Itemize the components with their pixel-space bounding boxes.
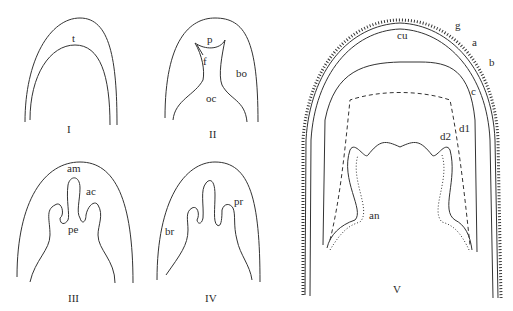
label-br: br [165, 226, 174, 237]
label-a: a [472, 37, 477, 48]
panel-v-drawing [303, 20, 501, 298]
label-bo: bo [236, 68, 247, 79]
label-am: am [67, 163, 80, 174]
panel-numeral-i: I [67, 124, 71, 135]
label-pe: pe [68, 224, 78, 235]
label-oc: oc [206, 93, 216, 104]
label-p: p [207, 34, 213, 45]
panel-numeral-iv: IV [205, 293, 217, 304]
panel-numeral-ii: II [209, 129, 216, 140]
panel-i-drawing [25, 18, 117, 125]
label-pr: pr [234, 196, 243, 207]
label-t: t [72, 33, 75, 44]
label-an: an [369, 210, 379, 221]
label-f: f [203, 56, 207, 67]
label-cu: cu [397, 30, 407, 41]
label-d2: d2 [440, 131, 451, 142]
panel-numeral-v: V [393, 284, 401, 295]
figure-drawing [0, 0, 513, 311]
label-b: b [489, 57, 495, 68]
label-g: g [455, 20, 461, 31]
label-ac: ac [86, 186, 96, 197]
panel-numeral-iii: III [68, 293, 79, 304]
label-c: c [471, 86, 476, 97]
label-d1: d1 [459, 123, 470, 134]
panel-iv-drawing [157, 162, 260, 282]
